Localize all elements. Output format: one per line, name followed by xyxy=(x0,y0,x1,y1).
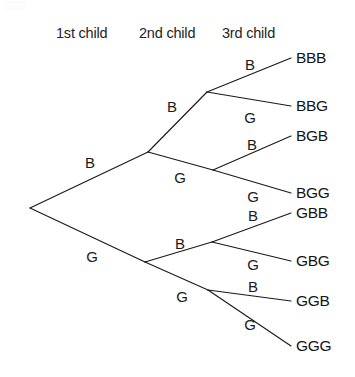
edge-label-GBB: B xyxy=(248,207,258,224)
edge-label-BGB: B xyxy=(247,136,257,153)
scan-artifact xyxy=(4,1,26,10)
tree-edge-BB-to-BBG xyxy=(207,92,291,106)
column-headers: 1st child2nd child3rd child xyxy=(56,25,275,41)
edge-label-GG: G xyxy=(176,288,188,305)
edge-label-BG: G xyxy=(174,169,186,186)
outcome-label-BGB: BGB xyxy=(296,127,328,144)
edge-label-G: G xyxy=(86,248,98,265)
edge-label-GB: B xyxy=(175,235,185,252)
edge-label-BBG: G xyxy=(244,109,256,126)
column-header-1: 1st child xyxy=(56,25,108,41)
outcome-label-GGB: GGB xyxy=(296,292,330,309)
outcome-label-GGG: GGG xyxy=(296,337,331,354)
tree-edge-labels: BGBGBGBGBGBGBG xyxy=(85,56,259,333)
edge-label-BB: B xyxy=(167,98,177,115)
tree-edge-G-to-GG xyxy=(145,262,208,290)
probability-tree-diagram: 1st child2nd child3rd child BGBGBGBGBGBG… xyxy=(0,0,355,377)
edge-label-GBG: G xyxy=(247,256,259,273)
tree-edge-B-to-BB xyxy=(148,92,207,152)
outcome-label-GBG: GBG xyxy=(296,252,330,269)
edge-label-BGG: G xyxy=(247,188,259,205)
outcome-label-BBB: BBB xyxy=(296,49,326,66)
outcome-label-GBB: GBB xyxy=(296,204,328,221)
column-header-2: 2nd child xyxy=(139,25,195,41)
outcome-labels: BBBBBGBGBBGGGBBGBGGGBGGG xyxy=(296,49,331,354)
outcome-label-BBG: BBG xyxy=(296,97,328,114)
edge-label-BBB: B xyxy=(245,56,255,73)
edge-label-GGG: G xyxy=(244,316,256,333)
outcome-label-BGG: BGG xyxy=(296,184,330,201)
edge-label-GGB: B xyxy=(248,278,258,295)
tree-edge-B-to-BG xyxy=(148,152,213,170)
column-header-3: 3rd child xyxy=(222,25,275,41)
tree-canvas: 1st child2nd child3rd child BGBGBGBGBGBG… xyxy=(0,0,355,377)
edge-label-B: B xyxy=(85,154,95,171)
